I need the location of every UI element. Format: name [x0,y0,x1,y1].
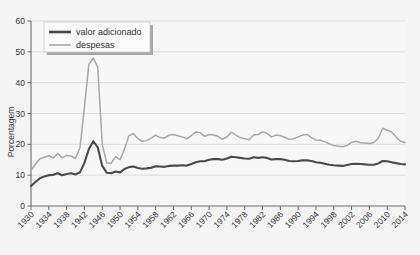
y-tick-label: 40 [16,78,26,88]
y-axis-title: Porcentagem [6,107,16,158]
y-tick-label: 0 [20,201,25,211]
legend-label-1: despesas [76,40,115,50]
line-chart: 0102030405060 19301934193819421946195019… [0,0,420,255]
y-tick-label: 30 [16,109,26,119]
chart-container: 0102030405060 19301934193819421946195019… [0,0,420,255]
y-tick-label: 20 [16,139,26,149]
legend-label-0: valor adicionado [76,27,142,37]
chart-legend: valor adicionadodespesas [44,22,153,55]
y-tick-label: 50 [16,47,26,57]
y-tick-label: 60 [16,16,26,26]
y-tick-label: 10 [16,170,26,180]
